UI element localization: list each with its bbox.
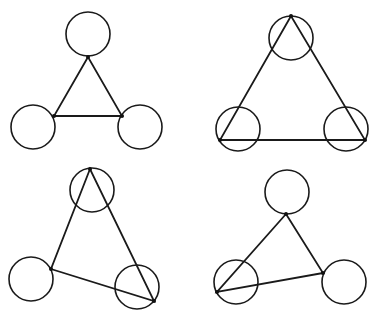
vertex-dot-1 [88, 167, 92, 171]
circle-2 [11, 105, 55, 149]
vertex-dot-3 [363, 138, 367, 142]
triangle-circles-diagram [0, 0, 379, 315]
vertex-dot-1 [86, 55, 90, 59]
triangle [51, 169, 154, 301]
diagram-canvas [0, 0, 379, 315]
vertex-dot-2 [218, 138, 222, 142]
triangle [220, 16, 365, 140]
circle-3 [322, 260, 366, 304]
circle-1 [269, 16, 313, 60]
panel-bottom-left [9, 167, 159, 309]
vertex-dot-1 [284, 212, 288, 216]
triangle [54, 57, 122, 116]
panel-bottom-right [214, 170, 366, 304]
vertex-dot-2 [215, 290, 219, 294]
circle-1 [265, 170, 309, 214]
triangle [217, 214, 323, 292]
vertex-dot-3 [152, 299, 156, 303]
circle-2 [9, 257, 53, 301]
vertex-dot-2 [49, 267, 53, 271]
panel-top-left [11, 12, 162, 149]
panel-top-right [216, 14, 368, 151]
circle-3 [118, 105, 162, 149]
vertex-dot-2 [52, 114, 56, 118]
circle-3 [115, 265, 159, 309]
vertex-dot-3 [321, 271, 325, 275]
vertex-dot-1 [289, 14, 293, 18]
circle-3 [324, 107, 368, 151]
circle-2 [216, 107, 260, 151]
circle-1 [66, 12, 110, 56]
circle-2 [214, 260, 258, 304]
vertex-dot-3 [120, 114, 124, 118]
